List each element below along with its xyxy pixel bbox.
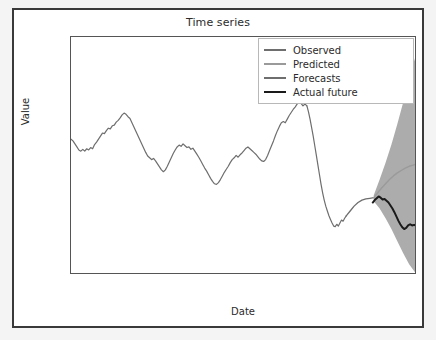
x-tick-minor-mark (178, 273, 179, 274)
x-tick-minor-mark (308, 273, 309, 274)
x-tick-minor-mark (284, 273, 285, 274)
x-tick-mark (266, 273, 267, 274)
x-tick-mark (361, 273, 362, 274)
legend-swatch-forecasts (264, 77, 286, 79)
x-tick-minor-mark (201, 273, 202, 274)
x-tick-minor-mark (231, 273, 232, 274)
x-tick-minor-mark (112, 273, 113, 274)
legend-label-forecasts: Forecasts (293, 73, 341, 84)
x-tick-minor-mark (355, 273, 356, 274)
x-tick-mark (219, 273, 220, 274)
x-axis-label: Date (70, 306, 416, 317)
y-tick-mark (70, 108, 71, 109)
x-tick-mark (314, 273, 315, 274)
x-tick-minor-mark (260, 273, 261, 274)
legend-item-predicted[interactable]: Predicted (264, 57, 407, 71)
x-tick-minor-mark (142, 273, 143, 274)
x-tick-minor-mark (95, 273, 96, 274)
x-tick-minor-mark (130, 273, 131, 274)
x-tick-minor-mark (331, 273, 332, 274)
x-tick-minor-mark (160, 273, 161, 274)
x-tick-mark (124, 273, 125, 274)
y-tick-mark (70, 138, 71, 139)
x-tick-minor-mark (296, 273, 297, 274)
x-tick-minor-mark (325, 273, 326, 274)
x-tick-minor-mark (272, 273, 273, 274)
screenshot-root: Time series 7550250−25−50−75−100 Ja (0, 0, 436, 340)
x-tick-minor-mark (402, 273, 403, 274)
x-tick-minor-mark (166, 273, 167, 274)
x-tick-minor-mark (183, 273, 184, 274)
x-tick-minor-mark (237, 273, 238, 274)
x-tick-mark (77, 273, 78, 274)
x-tick-minor-mark (379, 273, 380, 274)
x-tick-mark (385, 273, 386, 274)
x-tick-minor-mark (225, 273, 226, 274)
x-tick-mark (290, 273, 291, 274)
x-tick-minor-mark (320, 273, 321, 274)
x-tick-minor-mark (207, 273, 208, 274)
legend-swatch-predicted (264, 63, 286, 65)
x-tick-minor-mark (367, 273, 368, 274)
observed-tail-line (307, 106, 346, 227)
legend-label-actual-future: Actual future (293, 87, 358, 98)
series-group (71, 102, 416, 229)
legend-swatch-actual-future (264, 91, 286, 94)
legend-label-observed: Observed (293, 45, 341, 56)
legend-label-predicted: Predicted (293, 59, 340, 70)
x-tick-mark (148, 273, 149, 274)
x-tick-minor-mark (89, 273, 90, 274)
x-tick-minor-mark (154, 273, 155, 274)
y-tick-mark (70, 168, 71, 169)
y-axis-label: Value (20, 67, 31, 157)
x-tick-minor-mark (343, 273, 344, 274)
x-tick-minor-mark (136, 273, 137, 274)
x-tick-minor-mark (278, 273, 279, 274)
x-tick-minor-mark (349, 273, 350, 274)
x-tick-minor-mark (83, 273, 84, 274)
x-tick-minor-mark (249, 273, 250, 274)
legend-item-actual-future[interactable]: Actual future (264, 85, 407, 99)
x-tick-minor-mark (396, 273, 397, 274)
observed-line (71, 102, 307, 184)
y-tick-mark (70, 198, 71, 199)
x-tick-mark (243, 273, 244, 274)
x-tick-minor-mark (254, 273, 255, 274)
matplotlib-figure: Time series 7550250−25−50−75−100 Ja (14, 10, 422, 326)
x-tick-minor-mark (189, 273, 190, 274)
x-tick-mark (337, 273, 338, 274)
x-tick-mark (195, 273, 196, 274)
legend-swatch-observed (264, 49, 286, 51)
figure-frame: Time series 7550250−25−50−75−100 Ja (12, 8, 424, 328)
x-tick-minor-mark (302, 273, 303, 274)
chart-legend[interactable]: Observed Predicted Forecasts Actual futu… (258, 38, 414, 104)
x-tick-minor-mark (107, 273, 108, 274)
y-tick-mark (70, 229, 71, 230)
x-tick-minor-mark (213, 273, 214, 274)
y-tick-mark (70, 78, 71, 79)
x-tick-minor-mark (391, 273, 392, 274)
x-tick-minor-mark (373, 273, 374, 274)
x-tick-mark (101, 273, 102, 274)
chart-title: Time series (14, 16, 422, 29)
forecasts-line (346, 198, 374, 216)
x-tick-mark (172, 273, 173, 274)
legend-item-forecasts[interactable]: Forecasts (264, 71, 407, 85)
y-tick-mark (70, 47, 71, 48)
y-tick-mark (70, 259, 71, 260)
x-tick-minor-mark (118, 273, 119, 274)
legend-item-observed[interactable]: Observed (264, 43, 407, 57)
